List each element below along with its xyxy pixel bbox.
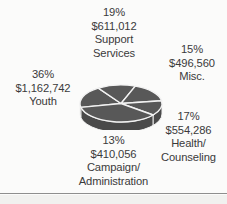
slice-value: $496,560 bbox=[157, 57, 227, 71]
slice-name-line2: Administration bbox=[57, 175, 170, 189]
slice-label-campaign-administration: 13% $410,056 Campaign/ Administration bbox=[57, 134, 170, 188]
pie-graphic bbox=[76, 80, 166, 130]
slice-label-youth: 36% $1,162,742 Youth bbox=[0, 68, 86, 109]
slice-percent: 36% bbox=[0, 68, 86, 82]
page-edge-shadow bbox=[0, 195, 227, 204]
slice-percent: 15% bbox=[157, 43, 227, 57]
pie-chart-figure: 19% $611,012 Support Services 15% $496,5… bbox=[0, 0, 227, 204]
slice-name-line1: Youth bbox=[0, 95, 86, 109]
pie-svg bbox=[76, 80, 166, 130]
page-rule-divider bbox=[0, 193, 227, 194]
slice-name-line1: Support bbox=[66, 33, 162, 47]
slice-percent: 19% bbox=[66, 6, 162, 20]
slice-value: $1,162,742 bbox=[0, 82, 86, 96]
slice-label-misc: 15% $496,560 Misc. bbox=[157, 43, 227, 84]
slice-name-line2: Services bbox=[66, 47, 162, 61]
slice-name-line1: Campaign/ bbox=[57, 161, 170, 175]
slice-label-support-services: 19% $611,012 Support Services bbox=[66, 6, 162, 60]
slice-value: $611,012 bbox=[66, 20, 162, 34]
pie-top-face bbox=[80, 85, 162, 122]
slice-name-line1: Misc. bbox=[157, 70, 227, 84]
slice-value: $410,056 bbox=[57, 148, 170, 162]
slice-percent: 13% bbox=[57, 134, 170, 148]
